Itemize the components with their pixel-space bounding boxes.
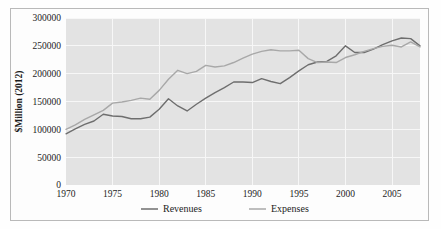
x-tick-label: 2005	[383, 189, 402, 199]
y-tick-label: 150000	[33, 97, 62, 107]
y-axis-title: $Million (2012)	[14, 70, 25, 132]
x-tick-label: 1990	[243, 189, 262, 199]
line-chart: 050000100000150000200000250000300000 197…	[0, 0, 441, 229]
y-tick-label: 300000	[33, 13, 62, 23]
y-tick-label: 200000	[33, 69, 62, 79]
y-axis-tick-labels: 050000100000150000200000250000300000	[33, 13, 62, 190]
legend-label-expenses: Expenses	[271, 203, 309, 214]
figure-container: 050000100000150000200000250000300000 197…	[0, 0, 441, 229]
x-tick-label: 1995	[289, 189, 308, 199]
x-tick-label: 1980	[150, 189, 169, 199]
x-tick-label: 1985	[196, 189, 215, 199]
y-tick-label: 100000	[33, 125, 62, 135]
x-tick-label: 1975	[103, 189, 122, 199]
y-tick-label: 250000	[33, 41, 62, 51]
chart-legend: RevenuesExpenses	[141, 203, 309, 214]
legend-label-revenues: Revenues	[163, 203, 202, 214]
x-axis-tick-labels: 19701975198019851990199520002005	[57, 189, 402, 199]
x-tick-label: 1970	[57, 189, 76, 199]
x-tick-label: 2000	[336, 189, 355, 199]
y-tick-label: 50000	[37, 153, 61, 163]
